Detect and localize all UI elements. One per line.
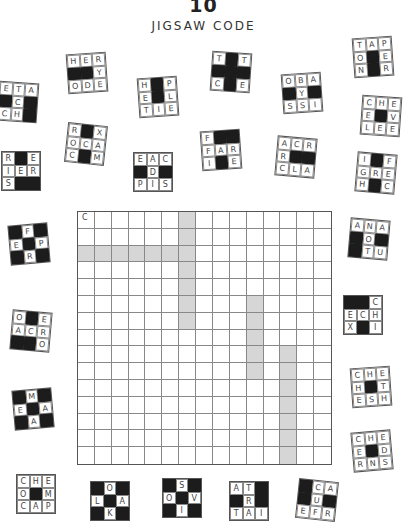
grid-cell[interactable] — [314, 380, 331, 397]
grid-cell[interactable] — [95, 363, 112, 380]
grid-cell[interactable] — [112, 380, 129, 397]
grid-cell[interactable] — [247, 363, 264, 380]
grid-cell[interactable] — [145, 346, 162, 363]
jigsaw-piece[interactable]: RXOCACM — [64, 122, 107, 165]
grid-cell[interactable] — [112, 346, 129, 363]
grid-cell[interactable] — [230, 414, 247, 431]
grid-cell[interactable] — [112, 330, 129, 347]
grid-cell[interactable] — [314, 212, 331, 229]
grid-cell[interactable] — [280, 313, 297, 330]
grid-cell[interactable] — [264, 279, 281, 296]
grid-cell[interactable] — [162, 397, 179, 414]
grid-cell[interactable] — [179, 330, 196, 347]
grid-cell[interactable] — [297, 212, 314, 229]
jigsaw-piece[interactable]: ATRTAI — [229, 481, 269, 521]
grid-cell[interactable] — [95, 246, 112, 263]
grid-cell[interactable] — [196, 313, 213, 330]
grid-cell[interactable]: C — [78, 212, 95, 229]
grid-cell[interactable] — [297, 380, 314, 397]
grid-cell[interactable] — [280, 279, 297, 296]
grid-cell[interactable] — [145, 414, 162, 431]
jigsaw-piece[interactable]: HERYODE — [66, 52, 108, 94]
grid-cell[interactable] — [78, 414, 95, 431]
grid-cell[interactable] — [162, 346, 179, 363]
grid-cell[interactable] — [213, 397, 230, 414]
grid-cell[interactable] — [297, 229, 314, 246]
grid-cell[interactable] — [264, 380, 281, 397]
grid-cell[interactable] — [179, 414, 196, 431]
grid-cell[interactable] — [129, 246, 146, 263]
grid-cell[interactable] — [78, 346, 95, 363]
grid-cell[interactable] — [314, 246, 331, 263]
grid-cell[interactable] — [314, 363, 331, 380]
grid-cell[interactable] — [314, 330, 331, 347]
grid-cell[interactable] — [314, 430, 331, 447]
grid-cell[interactable] — [112, 363, 129, 380]
grid-cell[interactable] — [230, 296, 247, 313]
grid-cell[interactable] — [162, 447, 179, 464]
grid-cell[interactable] — [145, 212, 162, 229]
jigsaw-piece[interactable]: TAPOENR — [352, 36, 394, 78]
grid-cell[interactable] — [78, 363, 95, 380]
grid-cell[interactable] — [129, 346, 146, 363]
grid-cell[interactable] — [264, 212, 281, 229]
grid-cell[interactable] — [95, 414, 112, 431]
grid-cell[interactable] — [162, 380, 179, 397]
grid-cell[interactable] — [179, 246, 196, 263]
grid-cell[interactable] — [297, 262, 314, 279]
grid-cell[interactable] — [129, 447, 146, 464]
grid-cell[interactable] — [264, 414, 281, 431]
grid-cell[interactable] — [297, 279, 314, 296]
grid-cell[interactable] — [247, 430, 264, 447]
grid-cell[interactable] — [112, 430, 129, 447]
grid-cell[interactable] — [297, 397, 314, 414]
grid-cell[interactable] — [145, 330, 162, 347]
grid-cell[interactable] — [162, 330, 179, 347]
grid-cell[interactable] — [112, 447, 129, 464]
grid-cell[interactable] — [162, 430, 179, 447]
grid-cell[interactable] — [196, 346, 213, 363]
grid-cell[interactable] — [179, 296, 196, 313]
grid-cell[interactable] — [230, 313, 247, 330]
grid-cell[interactable] — [179, 346, 196, 363]
grid-cell[interactable] — [112, 229, 129, 246]
grid-cell[interactable] — [179, 430, 196, 447]
jigsaw-piece[interactable]: ETACCH — [0, 81, 39, 123]
jigsaw-piece[interactable]: OLAK — [90, 481, 130, 521]
grid-cell[interactable] — [213, 447, 230, 464]
grid-cell[interactable] — [145, 313, 162, 330]
jigsaw-piece[interactable]: CECHXI — [343, 295, 383, 335]
grid-cell[interactable] — [314, 313, 331, 330]
grid-cell[interactable] — [230, 397, 247, 414]
grid-cell[interactable] — [314, 346, 331, 363]
grid-cell[interactable] — [112, 313, 129, 330]
grid-cell[interactable] — [280, 346, 297, 363]
grid-cell[interactable] — [247, 380, 264, 397]
grid-cell[interactable] — [213, 279, 230, 296]
grid-cell[interactable] — [129, 430, 146, 447]
grid-cell[interactable] — [280, 414, 297, 431]
grid-cell[interactable] — [264, 229, 281, 246]
grid-cell[interactable] — [196, 229, 213, 246]
grid-cell[interactable] — [196, 447, 213, 464]
jigsaw-piece[interactable]: ANAOTU — [347, 217, 390, 260]
grid-cell[interactable] — [95, 212, 112, 229]
jigsaw-piece[interactable]: CHEEVLEE — [360, 95, 402, 137]
grid-cell[interactable] — [213, 212, 230, 229]
grid-cell[interactable] — [213, 313, 230, 330]
grid-cell[interactable] — [129, 313, 146, 330]
jigsaw-piece[interactable]: HPELTIE — [137, 76, 179, 118]
grid-cell[interactable] — [264, 430, 281, 447]
grid-cell[interactable] — [247, 212, 264, 229]
grid-cell[interactable] — [213, 414, 230, 431]
grid-cell[interactable] — [196, 380, 213, 397]
grid-cell[interactable] — [179, 262, 196, 279]
grid-cell[interactable] — [129, 414, 146, 431]
grid-cell[interactable] — [247, 447, 264, 464]
grid-cell[interactable] — [247, 346, 264, 363]
grid-cell[interactable] — [314, 447, 331, 464]
grid-cell[interactable] — [280, 330, 297, 347]
grid-cell[interactable] — [314, 296, 331, 313]
grid-cell[interactable] — [230, 380, 247, 397]
grid-cell[interactable] — [196, 414, 213, 431]
